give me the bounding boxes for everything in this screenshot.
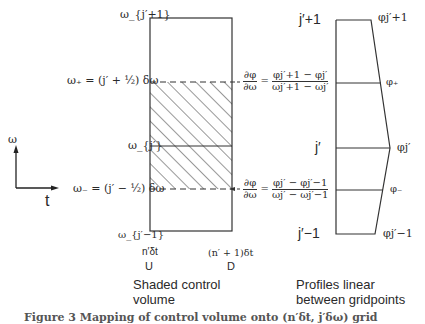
- upper-gradient-formula: ∂φ ∂ω = φj′+1 − φj′ ωj′+1 − ωj′: [243, 70, 328, 92]
- lower-rhs-fraction: φj′ − φj′−1 ωj′ − ωj′−1: [272, 178, 329, 200]
- lower-lhs-fraction: ∂φ ∂ω: [243, 178, 257, 200]
- profile-label-mid: j′: [315, 140, 321, 154]
- upper-lhs-num: ∂φ: [243, 70, 257, 82]
- upper-lhs-fraction: ∂φ ∂ω: [243, 70, 257, 92]
- lower-rhs-den: ωj′ − ωj′−1: [272, 190, 329, 201]
- upper-equals: =: [260, 75, 268, 86]
- profile-label-bottom: j′−1: [298, 226, 320, 240]
- lower-rhs-num: φj′ − φj′−1: [272, 178, 329, 190]
- row-label-omega-mid: ω_{j′}: [128, 140, 162, 151]
- row-label-omega-bottom: ω_{j′−1}: [118, 230, 164, 240]
- caption-control-volume-2: volume: [133, 293, 175, 306]
- caption-control-volume-1: Shaded control: [133, 278, 220, 291]
- phi-label-top: φj′+1: [378, 12, 408, 23]
- upper-rhs-num: φj′+1 − φj′: [272, 70, 329, 82]
- profile-shape: [336, 20, 390, 234]
- upper-lhs-den: ∂ω: [243, 82, 257, 93]
- lower-lhs-den: ∂ω: [243, 190, 257, 201]
- column-label-left-time: n′δt: [142, 247, 158, 257]
- row-label-omega-minus: ω₋ = (j′ − ½) δω: [73, 183, 164, 194]
- caption-profiles-2: between gridpoints: [296, 293, 405, 306]
- caption-profiles-1: Profiles linear: [296, 278, 375, 291]
- column-label-downstream: D: [227, 261, 235, 272]
- phi-label-bottom: φj′−1: [383, 228, 413, 239]
- figure-caption: Figure 3 Mapping of control volume onto …: [24, 312, 378, 323]
- lower-gradient-formula: ∂φ ∂ω = φj′ − φj′−1 ωj′ − ωj′−1: [243, 178, 328, 200]
- phi-label-minus: φ₋: [390, 184, 402, 194]
- row-label-omega-plus: ω₊ = (j′ + ½) δω: [67, 75, 158, 86]
- phi-label-mid: φj′: [397, 142, 411, 153]
- control-volume-box: [150, 18, 242, 231]
- upper-rhs-den: ωj′+1 − ωj′: [272, 82, 329, 93]
- row-label-omega-top: ω_{j′+1}: [120, 9, 171, 20]
- axes-icon: [14, 145, 60, 191]
- column-label-right-time: (n′ + 1)δt: [208, 248, 253, 258]
- lower-equals: =: [260, 183, 268, 194]
- upper-rhs-fraction: φj′+1 − φj′ ωj′+1 − ωj′: [272, 70, 329, 92]
- axis-label-omega: ω: [8, 134, 17, 145]
- axis-label-t: t: [45, 193, 49, 209]
- phi-label-plus: φ₊: [386, 77, 398, 87]
- lower-lhs-num: ∂φ: [243, 178, 257, 190]
- profile-label-top: j′+1: [299, 12, 321, 26]
- column-label-upstream: U: [145, 261, 153, 272]
